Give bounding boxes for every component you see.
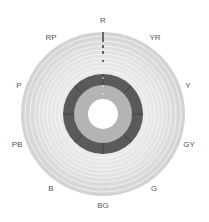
hue-label-r: R [100, 17, 106, 25]
hue-label-yr: YR [149, 34, 160, 42]
center-hole [88, 99, 118, 129]
hue-label-rp: RP [45, 34, 56, 42]
hue-label-p: P [16, 82, 21, 90]
hue-label-pb: PB [12, 141, 23, 149]
hue-wheel [0, 0, 209, 222]
hue-label-g: G [151, 185, 157, 193]
hue-label-gy: GY [183, 141, 195, 149]
hue-label-bg: BG [97, 202, 109, 210]
hue-label-b: B [48, 185, 53, 193]
hue-label-y: Y [185, 82, 190, 90]
